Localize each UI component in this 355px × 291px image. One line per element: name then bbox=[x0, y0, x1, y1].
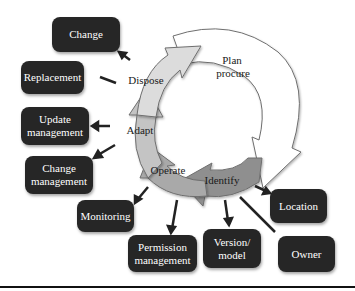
label-procure: procure bbox=[216, 67, 250, 79]
box-version-model: Version/ model bbox=[203, 229, 261, 268]
box-monitoring: Monitoring bbox=[77, 200, 134, 232]
lifecycle-diagram: Plan procure Identify Operate Adapt Disp… bbox=[0, 0, 355, 291]
label-operate: Operate bbox=[151, 164, 186, 176]
label-dispose: Dispose bbox=[128, 74, 164, 86]
box-update-management: Update management bbox=[21, 107, 89, 145]
box-location: Location bbox=[270, 189, 327, 223]
bottom-rule bbox=[0, 286, 355, 288]
box-change-management: Change management bbox=[25, 156, 93, 194]
label-identify: Identify bbox=[205, 174, 240, 186]
box-owner: Owner bbox=[278, 236, 335, 272]
label-plan: Plan bbox=[222, 54, 242, 66]
arrow-to-replacement bbox=[100, 77, 116, 83]
arrow-to-permission-management bbox=[172, 200, 177, 229]
box-replacement: Replacement bbox=[21, 61, 84, 94]
box-change: Change bbox=[52, 17, 120, 52]
label-adapt: Adapt bbox=[127, 124, 154, 136]
box-permission-management: Permission management bbox=[128, 235, 197, 272]
